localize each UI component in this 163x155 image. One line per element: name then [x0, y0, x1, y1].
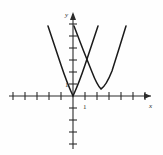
y-axis-label: y	[64, 11, 69, 19]
y-axis	[70, 12, 76, 149]
x-axis-tick-label-one: 1	[83, 103, 87, 111]
coordinate-plane-graphic: x y 1 1	[0, 0, 163, 155]
x-axis	[9, 93, 151, 99]
y-axis-tick-label-one: 1	[65, 81, 69, 89]
y-axis-arrow-icon	[70, 12, 76, 20]
parabola-right-curve	[74, 26, 126, 89]
x-axis-label: x	[148, 102, 153, 110]
parabola-figure: x y 1 1	[0, 0, 163, 155]
